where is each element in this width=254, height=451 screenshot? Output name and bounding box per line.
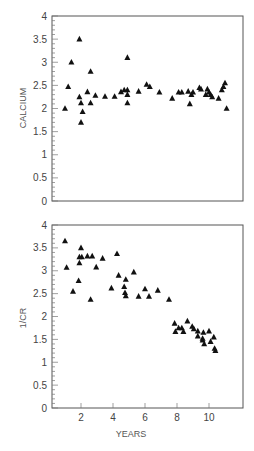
inverse-creatinine-plot-frame	[52, 225, 243, 408]
triangle-marker	[78, 245, 84, 251]
triangle-marker	[100, 255, 106, 261]
triangle-marker	[89, 253, 95, 259]
triangle-marker	[187, 101, 193, 107]
triangle-marker	[93, 264, 99, 270]
inverse-creatinine-y-minor-ticks	[52, 225, 58, 408]
triangle-marker	[185, 88, 191, 94]
triangle-marker	[68, 59, 74, 65]
triangle-marker	[88, 100, 94, 106]
triangle-marker	[136, 88, 142, 94]
triangle-marker	[116, 272, 122, 278]
calcium-y-axis-label: CALCIUM	[18, 88, 28, 129]
triangle-marker	[84, 89, 90, 95]
y-tick-label: 1.5	[33, 334, 47, 345]
triangle-marker	[155, 287, 161, 293]
triangle-marker	[84, 253, 90, 259]
y-tick-label: 3	[41, 57, 47, 68]
x-tick-label: 8	[174, 412, 180, 423]
triangle-marker	[114, 251, 120, 257]
x-tick-label: 10	[203, 412, 215, 423]
y-tick-label: 3	[41, 265, 47, 276]
triangle-marker	[88, 296, 94, 302]
triangle-marker	[112, 93, 118, 99]
inverse-creatinine-y-tick-labels: 00.511.522.533.54	[33, 220, 47, 414]
triangle-marker	[211, 334, 217, 340]
y-tick-label: 4	[41, 220, 47, 231]
triangle-marker	[222, 80, 228, 86]
triangle-marker	[121, 283, 127, 289]
triangle-marker	[64, 264, 70, 270]
x-tick-label: 4	[110, 412, 116, 423]
years-x-tick-labels: 246810	[78, 403, 215, 423]
triangle-marker	[169, 95, 175, 101]
y-tick-label: 0.5	[33, 172, 47, 183]
triangle-marker	[76, 94, 82, 100]
y-tick-label: 3.5	[33, 34, 47, 45]
chart-figure: 00.511.522.533.54 CALCIUM 00.511.522.533…	[0, 0, 254, 451]
triangle-marker	[80, 108, 86, 114]
y-tick-label: 2	[41, 103, 47, 114]
y-tick-label: 2.5	[33, 288, 47, 299]
y-tick-label: 1.5	[33, 126, 47, 137]
triangle-marker	[78, 100, 84, 106]
triangle-marker	[195, 333, 201, 339]
triangle-marker	[62, 238, 68, 244]
y-tick-label: 2.5	[33, 80, 47, 91]
triangle-marker	[76, 36, 82, 42]
triangle-marker	[172, 320, 178, 326]
inverse-creatinine-data-points	[62, 238, 218, 353]
triangle-marker	[70, 288, 76, 294]
x-tick-label: 2	[78, 412, 84, 423]
triangle-marker	[206, 328, 212, 334]
triangle-marker	[184, 318, 190, 324]
y-tick-label: 3.5	[33, 242, 47, 253]
triangle-marker	[88, 68, 94, 74]
y-tick-label: 1	[41, 149, 47, 160]
calcium-y-tick-labels: 00.511.522.533.54	[33, 11, 47, 207]
triangle-marker	[76, 260, 82, 266]
triangle-marker	[142, 286, 148, 292]
triangle-marker	[62, 105, 68, 111]
calcium-data-points	[62, 36, 230, 125]
years-x-axis-label: YEARS	[116, 429, 147, 439]
calcium-plot-frame	[52, 16, 243, 201]
triangle-marker	[102, 93, 108, 99]
triangle-marker	[224, 105, 230, 111]
triangle-marker	[166, 296, 172, 302]
triangle-marker	[146, 293, 152, 299]
triangle-marker	[156, 89, 162, 95]
y-tick-label: 0	[41, 196, 47, 207]
y-tick-label: 0.5	[33, 380, 47, 391]
triangle-marker	[78, 119, 84, 125]
x-tick-label: 6	[142, 412, 148, 423]
y-tick-label: 1	[41, 357, 47, 368]
y-tick-label: 0	[41, 403, 47, 414]
triangle-marker	[124, 54, 130, 60]
triangle-marker	[76, 278, 82, 284]
inverse-creatinine-plot: 00.511.522.533.54 246810 1/CR YEARS	[18, 220, 243, 440]
triangle-marker	[200, 329, 206, 335]
triangle-marker	[123, 276, 129, 282]
triangle-marker	[190, 89, 196, 95]
y-tick-label: 2	[41, 311, 47, 322]
triangle-marker	[124, 100, 130, 106]
triangle-marker	[92, 92, 98, 98]
calcium-y-minor-ticks	[52, 16, 58, 201]
triangle-marker	[65, 83, 71, 89]
triangle-marker	[131, 269, 137, 275]
y-tick-label: 4	[41, 11, 47, 22]
inverse-creatinine-y-axis-label: 1/CR	[18, 307, 28, 328]
calcium-plot: 00.511.522.533.54 CALCIUM	[18, 11, 243, 207]
triangle-marker	[108, 285, 114, 291]
triangle-marker	[136, 293, 142, 299]
triangle-marker	[216, 95, 222, 101]
